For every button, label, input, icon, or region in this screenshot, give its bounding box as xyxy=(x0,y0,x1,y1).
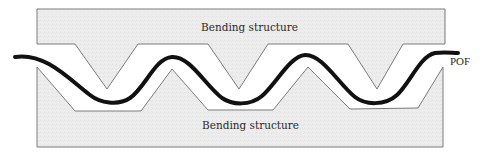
pof-label: POF xyxy=(450,56,470,67)
bottom-structure-label: Bending structure xyxy=(202,120,299,131)
top-structure-label: Bending structure xyxy=(201,22,298,33)
